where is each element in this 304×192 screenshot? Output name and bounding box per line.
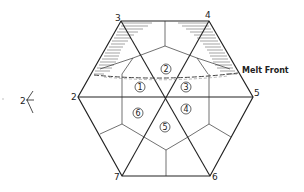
cell-5: 5 [160,122,170,132]
vertex-label-3: 3 [115,13,121,23]
cell-label-6: 6 [135,109,140,118]
cell-label-4: 4 [183,105,188,114]
cell-label-2: 2 [163,65,168,74]
cell-label-1: 1 [137,83,142,92]
cell-4: 4 [181,104,191,114]
vertex-label-2: 2 [71,92,77,102]
vertex-label-7: 7 [114,172,120,182]
triangulation-lines [78,21,253,176]
cell-label-5: 5 [162,123,167,132]
vertex-label-4: 4 [205,10,211,20]
vertex-label-5: 5 [254,88,260,98]
cell-1: 1 [135,82,145,92]
side-annotation-label: 2 [20,96,26,106]
hexagonal-mesh-diagram: Melt Front 3 4 2 5 7 6 1 2 3 4 5 [0,0,304,192]
side-annotation: 2 [20,91,34,113]
cell-labels: 1 2 3 4 5 6 [133,64,191,132]
cell-3: 3 [181,82,191,92]
cell-label-3: 3 [183,83,188,92]
vertex-label-6: 6 [212,172,218,182]
vertex-labels: 3 4 2 5 7 6 [71,10,260,182]
melt-front-label: Melt Front [242,66,289,75]
cell-2: 2 [161,64,171,74]
cell-6: 6 [133,108,143,118]
